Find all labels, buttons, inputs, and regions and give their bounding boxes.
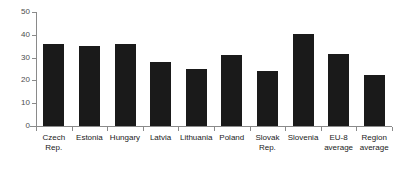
x-tick-label: Czech Rep. (36, 133, 72, 153)
bar (186, 69, 207, 126)
x-tick-mark (356, 127, 357, 131)
x-tick-label: Hungary (107, 133, 143, 143)
x-tick-label: Poland (214, 133, 250, 143)
x-tick-mark (143, 127, 144, 131)
x-tick-label: Lithuania (178, 133, 214, 143)
x-tick-label: Latvia (143, 133, 179, 143)
y-tick-label: 30 (21, 53, 30, 62)
y-tick-label: 50 (21, 7, 30, 16)
x-tick-label: Slovenia (285, 133, 321, 143)
bar (150, 62, 171, 126)
x-tick-mark (392, 127, 393, 131)
plot-area (36, 12, 392, 126)
x-tick-mark (107, 127, 108, 131)
bar (79, 46, 100, 126)
x-tick-mark (321, 127, 322, 131)
bar-chart-figure: 01020304050 Czech Rep.EstoniaHungaryLatv… (0, 0, 401, 172)
x-tick-label: Estonia (72, 133, 108, 143)
x-tick-label: Slovak Rep. (250, 133, 286, 153)
x-tick-mark (36, 127, 37, 131)
x-tick-label: Region average (356, 133, 392, 153)
x-tick-mark (214, 127, 215, 131)
bar (293, 34, 314, 126)
y-tick-label: 0 (26, 121, 30, 130)
bar (43, 44, 64, 126)
bar (257, 71, 278, 126)
y-tick-label: 10 (21, 98, 30, 107)
x-tick-mark (72, 127, 73, 131)
x-tick-label: EU-8 average (321, 133, 357, 153)
bar (328, 54, 349, 126)
y-tick-label: 40 (21, 30, 30, 39)
y-tick-label: 20 (21, 75, 30, 84)
x-tick-mark (178, 127, 179, 131)
bar (364, 75, 385, 126)
x-tick-mark (250, 127, 251, 131)
bar (221, 55, 242, 126)
x-tick-mark (285, 127, 286, 131)
x-axis-line (30, 126, 392, 127)
bar (115, 44, 136, 126)
